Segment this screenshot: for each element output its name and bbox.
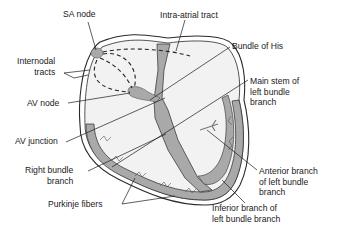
label-main-stem-left-bundle-branch: Main stem of left bundle branch: [250, 76, 299, 108]
sa-node: [91, 48, 103, 58]
label-right-bundle-branch: Right bundle branch: [25, 165, 73, 186]
label-av-node: AV node: [27, 98, 59, 109]
label-inferior-branch-left-bundle-branch: Inferior branch of left bundle branch: [212, 203, 280, 224]
label-sa-node: SA node: [63, 9, 96, 20]
label-av-junction: AV junction: [15, 136, 58, 147]
label-intra-atrial-tract: Intra-atrial tract: [160, 10, 218, 21]
label-internodal-tracts: Internodal tracts: [17, 56, 55, 77]
label-purkinje-fibers: Purkinje fibers: [48, 199, 102, 210]
label-anterior-branch-left-bundle-branch: Anterior branch of left bundle branch: [259, 166, 318, 198]
label-bundle-of-his: Bundle of His: [232, 41, 283, 52]
